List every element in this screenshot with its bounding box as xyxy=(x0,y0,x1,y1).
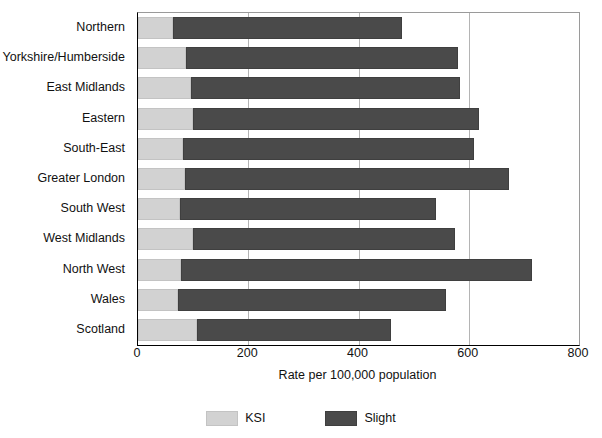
bar-segment-ksi xyxy=(138,259,181,281)
category-label: South West xyxy=(0,201,125,215)
x-tick-label: 600 xyxy=(457,346,478,360)
bar-segment-slight xyxy=(180,198,436,220)
x-tick-label: 200 xyxy=(237,346,258,360)
bar-segment-ksi xyxy=(138,228,193,250)
stacked-bar-chart: NorthernYorkshire/HumbersideEast Midland… xyxy=(0,0,602,438)
chart-legend: KSI Slight xyxy=(0,405,602,431)
legend-item-slight: Slight xyxy=(325,411,395,426)
bar-row xyxy=(138,108,579,130)
legend-swatch-ksi xyxy=(206,411,238,426)
bar-segment-slight xyxy=(193,108,479,130)
x-tick-label: 0 xyxy=(134,346,141,360)
bar-segment-slight xyxy=(193,228,455,250)
bar-row xyxy=(138,47,579,69)
bar-segment-slight xyxy=(181,259,532,281)
plot-area xyxy=(137,12,580,346)
bar-row xyxy=(138,289,579,311)
category-label: Wales xyxy=(0,292,125,306)
bar-row xyxy=(138,77,579,99)
bar-row xyxy=(138,138,579,160)
bar-segment-ksi xyxy=(138,289,178,311)
bar-segment-ksi xyxy=(138,77,191,99)
bar-row xyxy=(138,319,579,341)
legend-label-slight: Slight xyxy=(364,411,395,425)
bar-segment-ksi xyxy=(138,198,180,220)
bar-segment-ksi xyxy=(138,138,183,160)
category-axis-labels: NorthernYorkshire/HumbersideEast Midland… xyxy=(0,12,131,344)
x-axis-title: Rate per 100,000 population xyxy=(137,368,578,382)
bar-segment-slight xyxy=(185,168,509,190)
bar-row xyxy=(138,259,579,281)
bar-segment-slight xyxy=(178,289,446,311)
category-label: Yorkshire/Humberside xyxy=(0,50,125,64)
x-axis-ticks: 0200400600800 xyxy=(137,346,578,362)
bar-segment-slight xyxy=(191,77,460,99)
bar-segment-slight xyxy=(183,138,474,160)
legend-swatch-slight xyxy=(325,411,357,426)
bar-segment-slight xyxy=(173,17,402,39)
bar-row xyxy=(138,228,579,250)
x-tick-label: 800 xyxy=(568,346,589,360)
bar-segment-ksi xyxy=(138,17,173,39)
category-label: Eastern xyxy=(0,111,125,125)
bar-segment-ksi xyxy=(138,168,185,190)
category-label: South-East xyxy=(0,141,125,155)
bar-segment-ksi xyxy=(138,47,186,69)
category-label: West Midlands xyxy=(0,231,125,245)
category-label: North West xyxy=(0,262,125,276)
legend-label-ksi: KSI xyxy=(245,411,265,425)
category-label: East Midlands xyxy=(0,80,125,94)
category-label: Northern xyxy=(0,20,125,34)
bar-segment-ksi xyxy=(138,108,193,130)
legend-item-ksi: KSI xyxy=(206,411,265,426)
bar-row xyxy=(138,168,579,190)
x-tick-label: 400 xyxy=(347,346,368,360)
bar-segment-slight xyxy=(186,47,458,69)
bar-row xyxy=(138,17,579,39)
bar-segment-ksi xyxy=(138,319,197,341)
bar-segment-slight xyxy=(197,319,391,341)
category-label: Scotland xyxy=(0,322,125,336)
bar-row xyxy=(138,198,579,220)
category-label: Greater London xyxy=(0,171,125,185)
